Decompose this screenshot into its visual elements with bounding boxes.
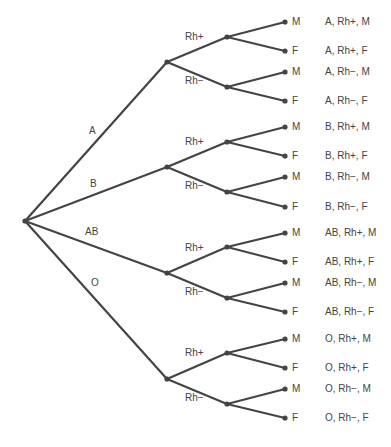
blood-type-label: O (91, 277, 99, 289)
blood-type-branch (25, 221, 167, 379)
leaf-node (282, 124, 287, 129)
rh-label: Rh+ (185, 136, 204, 148)
blood-type-label: B (90, 178, 97, 190)
sex-branch (227, 72, 285, 87)
outcome-label: A, Rh−, F (325, 95, 368, 107)
sex-label: F (292, 95, 298, 107)
leaf-node (282, 415, 287, 420)
rh-label: Rh+ (185, 242, 204, 254)
leaf-node (282, 336, 287, 341)
outcome-label: B, Rh−, M (325, 171, 370, 183)
sex-label: M (292, 171, 300, 183)
outcome-label: B, Rh+, M (325, 121, 370, 133)
sex-label: M (292, 383, 300, 395)
rh-label: Rh+ (185, 347, 204, 359)
sex-label: M (292, 66, 300, 78)
leaf-node (282, 230, 287, 235)
blood-type-label: AB (85, 226, 98, 238)
leaf-node (282, 386, 287, 391)
leaf-node (282, 174, 287, 179)
sex-branch (227, 283, 285, 298)
sex-label: F (292, 306, 298, 318)
sex-branch (227, 177, 285, 192)
leaf-node (282, 69, 287, 74)
sex-label: F (292, 412, 298, 424)
sex-branch (227, 192, 285, 207)
outcome-label: AB, Rh+, M (325, 227, 376, 239)
sex-label: F (292, 45, 298, 57)
outcome-label: B, Rh+, F (325, 150, 368, 162)
sex-label: F (292, 201, 298, 213)
sex-branch (227, 298, 285, 312)
outcome-label: O, Rh−, M (325, 383, 371, 395)
rh-label: Rh+ (185, 31, 204, 43)
sex-label: F (292, 150, 298, 162)
rh-label: Rh− (185, 180, 204, 192)
sex-label: M (292, 121, 300, 133)
outcome-label: AB, Rh+, F (325, 256, 374, 268)
sex-branch (227, 404, 285, 418)
sex-label: M (292, 227, 300, 239)
sex-label: M (292, 16, 300, 28)
sex-branch (227, 127, 285, 142)
sex-branch (227, 353, 285, 368)
blood-type-branch (25, 167, 167, 221)
leaf-node (282, 280, 287, 285)
outcome-label: AB, Rh−, M (325, 277, 376, 289)
outcome-label: AB, Rh−, F (325, 306, 374, 318)
rh-label: Rh− (185, 392, 204, 404)
outcome-label: O, Rh+, M (325, 333, 371, 345)
blood-type-branch (25, 62, 167, 221)
sex-label: M (292, 277, 300, 289)
leaf-node (282, 204, 287, 209)
sex-branch (227, 87, 285, 101)
outcome-label: B, Rh−, F (325, 201, 368, 213)
leaf-node (282, 98, 287, 103)
sex-branch (227, 142, 285, 156)
sex-branch (227, 247, 285, 262)
sex-branch (227, 339, 285, 353)
blood-type-label: A (89, 125, 96, 137)
outcome-label: A, Rh−, M (325, 66, 370, 78)
sex-branch (227, 22, 285, 37)
sex-label: F (292, 256, 298, 268)
sex-label: M (292, 333, 300, 345)
leaf-node (282, 259, 287, 264)
leaf-node (282, 48, 287, 53)
leaf-node (282, 309, 287, 314)
leaf-node (282, 153, 287, 158)
outcome-label: A, Rh+, F (325, 45, 368, 57)
leaf-node (282, 19, 287, 24)
sex-label: F (292, 362, 298, 374)
sex-branch (227, 37, 285, 51)
sex-branch (227, 389, 285, 404)
outcome-label: A, Rh+, M (325, 16, 370, 28)
leaf-node (282, 365, 287, 370)
sex-branch (227, 233, 285, 247)
rh-label: Rh− (185, 75, 204, 87)
outcome-label: O, Rh+, F (325, 362, 369, 374)
outcome-label: O, Rh−, F (325, 412, 369, 424)
rh-label: Rh− (185, 286, 204, 298)
